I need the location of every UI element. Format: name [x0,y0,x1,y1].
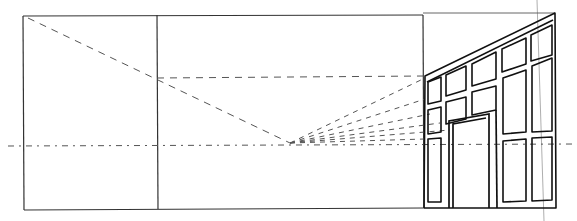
window-grid-facade [424,13,556,208]
doorway [449,110,497,208]
perspective-diagram [0,0,577,221]
construction-guides [8,18,577,146]
panel-divider-left [157,15,158,209]
outer-frame [23,15,423,210]
vertical-guide-right [537,0,544,221]
horizontal-guide [157,76,425,78]
convergence-lines [290,78,450,143]
diagonal-guide [28,18,290,143]
horizon-line [8,144,577,146]
